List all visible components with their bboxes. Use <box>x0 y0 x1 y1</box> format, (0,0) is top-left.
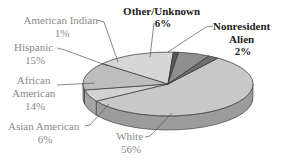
label-other-unknown-value: 6% <box>155 17 172 29</box>
label-white: White 56% <box>116 130 146 155</box>
label-african-american-name-2: American <box>12 87 56 99</box>
label-hispanic-name: Hispanic <box>14 41 53 53</box>
label-african-american-value: 14% <box>25 100 45 112</box>
label-asian-american-name: Asian American <box>8 120 80 132</box>
leader-other-unknown <box>150 23 154 57</box>
pie-chart: American Indian 1% Hispanic 15% African … <box>0 0 287 162</box>
label-american-indian-name: American Indian <box>24 14 99 26</box>
label-white-value: 56% <box>121 143 141 155</box>
leader-nonresident-alien <box>168 26 213 52</box>
label-asian-american-value: 6% <box>38 133 53 145</box>
label-hispanic-value: 15% <box>25 54 45 66</box>
label-american-indian-value: 1% <box>55 27 70 39</box>
label-other-unknown: Other/Unknown 6% <box>123 5 203 29</box>
label-nonresident-alien-name-1: Nonresident <box>213 20 271 32</box>
label-african-american: African American 14% <box>12 74 58 112</box>
label-nonresident-alien-value: 2% <box>235 45 252 57</box>
label-hispanic: Hispanic 15% <box>14 41 56 66</box>
label-african-american-name-1: African <box>17 74 51 86</box>
label-other-unknown-name: Other/Unknown <box>123 5 200 17</box>
label-nonresident-alien-name-2: Alien <box>229 33 254 45</box>
leader-hispanic <box>57 48 108 66</box>
pie-top-layer <box>83 52 253 116</box>
label-asian-american: Asian American 6% <box>8 120 82 145</box>
label-american-indian: American Indian 1% <box>24 14 101 39</box>
leader-american-indian <box>97 20 118 62</box>
label-white-name: White <box>116 130 143 142</box>
label-nonresident-alien: Nonresident Alien 2% <box>213 20 273 57</box>
